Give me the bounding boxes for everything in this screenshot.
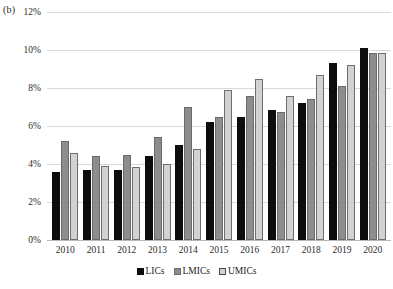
x-tick-label: 2013 [142,244,173,258]
bar [347,65,355,240]
x-tick-label: 2019 [327,244,358,258]
bar [307,99,315,240]
bar [92,156,100,240]
legend-swatch-icon [174,268,181,275]
bar [378,53,386,240]
legend-label: LICs [146,266,165,277]
figure-panel-b: (b) 0%2%4%6%8%10%12% 2010201120122013201… [0,0,393,289]
bar-group [111,12,142,240]
bar [184,107,192,240]
bar-group [50,12,81,240]
bar [369,53,377,240]
bar [145,156,153,240]
bar-group [327,12,358,240]
x-tick-label: 2018 [296,244,327,258]
y-tick-label: 4% [1,159,41,169]
bar [316,75,324,240]
bar [237,117,245,241]
bar-group [234,12,265,240]
bar [123,155,131,241]
bar-group [265,12,296,240]
y-tick-label: 0% [1,235,41,245]
x-tick-label: 2015 [204,244,235,258]
chart-legend: LICsLMICsUMICs [0,266,393,277]
bar [277,112,285,240]
legend-swatch-icon [219,268,226,275]
bar [70,153,78,240]
bar [206,122,214,240]
bar [163,164,171,240]
y-tick-label: 6% [1,121,41,131]
bar [329,63,337,240]
bar [83,170,91,240]
x-tick-label: 2014 [173,244,204,258]
bar [193,149,201,240]
bar-groups [47,12,391,240]
legend-item-lmics: LMICs [174,266,210,277]
bar [114,170,122,240]
bar [52,172,60,240]
x-tick-label: 2020 [357,244,388,258]
bar [154,137,162,240]
y-tick-label: 10% [1,45,41,55]
bar [246,96,254,240]
x-tick-label: 2011 [81,244,112,258]
x-tick-label: 2016 [234,244,265,258]
y-tick-label: 8% [1,83,41,93]
x-tick-label: 2010 [50,244,81,258]
bar [224,90,232,240]
x-tick-label: 2012 [111,244,142,258]
bar [61,141,69,240]
legend-label: LMICs [183,266,210,277]
bar-group [357,12,388,240]
legend-item-umics: UMICs [219,266,257,277]
plot-area: 0%2%4%6%8%10%12% [47,12,391,240]
bar-group [142,12,173,240]
bar [286,96,294,240]
y-tick-label: 12% [1,7,41,17]
bar [175,145,183,240]
bar [132,167,140,240]
bar-group [204,12,235,240]
bar-group [173,12,204,240]
x-axis-tick-labels: 2010201120122013201420152016201720182019… [47,244,391,258]
bar-group [81,12,112,240]
legend-swatch-icon [137,268,144,275]
bar [268,110,276,240]
bar [215,117,223,241]
bar-group [296,12,327,240]
bar [101,166,109,240]
gridline-0 [47,240,391,241]
legend-item-lics: LICs [137,266,165,277]
legend-label: UMICs [228,266,257,277]
x-tick-label: 2017 [265,244,296,258]
bar [255,79,263,241]
y-tick-label: 2% [1,197,41,207]
bar [338,86,346,240]
bar [360,48,368,240]
bar [298,103,306,240]
